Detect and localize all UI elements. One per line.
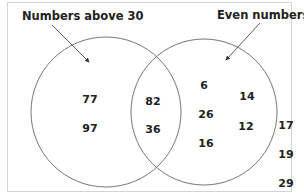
region-b-only-value: 6 (200, 79, 208, 92)
region-a-only-value: 97 (82, 122, 97, 135)
region-b-only-value: 16 (198, 137, 213, 150)
region-intersection-value: 36 (145, 123, 160, 136)
set-a-circle (31, 37, 181, 187)
arrow-set-b (226, 23, 260, 60)
region-outside-value: 19 (278, 148, 293, 161)
arrow-set-a (52, 25, 89, 62)
region-a-only-value: 77 (82, 93, 97, 106)
region-outside-value: 17 (278, 119, 293, 132)
region-b-only-value: 26 (198, 108, 213, 121)
set-a-label: Numbers above 30 (22, 9, 144, 23)
region-outside-value: 29 (278, 177, 293, 190)
region-b-only-value: 14 (239, 90, 254, 103)
region-b-only-value: 12 (238, 120, 253, 133)
set-b-label: Even numbers (217, 8, 304, 22)
region-intersection-value: 82 (145, 95, 160, 108)
